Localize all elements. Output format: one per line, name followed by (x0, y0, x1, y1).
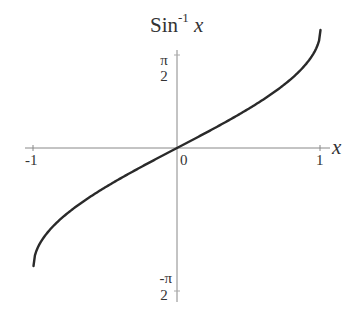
chart-canvas (0, 0, 355, 330)
x-tick-label-1: 1 (316, 152, 324, 169)
y-tick-label-negpi2: -π 2 (150, 270, 172, 304)
x-tick-label-0: 0 (180, 152, 188, 169)
x-tick-label-neg1: -1 (25, 152, 38, 169)
y-tick-label-pi2: π 2 (156, 52, 172, 84)
chart-title: Sin-1 x (150, 12, 203, 38)
x-axis-label: x (332, 135, 341, 160)
